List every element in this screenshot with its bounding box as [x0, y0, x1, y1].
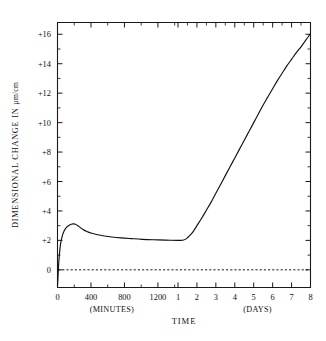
plot-frame [58, 23, 311, 288]
y-tick-label: 0 [47, 266, 51, 275]
x-tick-label-days: 4 [233, 293, 238, 302]
axis-ticks [58, 23, 311, 288]
chart-figure: 0+2+4+6+8+10+12+14+16 040080012001234567… [0, 0, 326, 341]
y-tick-label: +12 [38, 89, 51, 98]
x-tick-label-minutes: 400 [85, 293, 98, 302]
series-line-dimensional-change [58, 34, 311, 286]
y-axis-title: DIMENSIONAL CHANGE IN µm/cm [11, 82, 20, 228]
y-axis-title-text: DIMENSIONAL CHANGE IN [11, 105, 20, 228]
x-tick-label-minutes: 1200 [150, 293, 167, 302]
x-axis-tick-labels: 0400800120012345678 [55, 293, 312, 302]
y-tick-label: +8 [42, 148, 51, 157]
x-tick-label-days: 7 [289, 293, 293, 302]
x-tick-label-days: 8 [308, 293, 312, 302]
plot-border [58, 23, 311, 288]
x-tick-label-minutes: 800 [118, 293, 131, 302]
x-tick-label-days: 3 [214, 293, 218, 302]
y-tick-label: +14 [38, 60, 52, 69]
y-tick-label: +6 [42, 178, 51, 187]
x-tick-label-days: 5 [252, 293, 256, 302]
chart-canvas: 0+2+4+6+8+10+12+14+16 040080012001234567… [0, 0, 326, 341]
y-tick-label: +4 [42, 207, 52, 216]
x-subcaption-days: (DAYS) [243, 305, 272, 314]
x-axis-title: TIME [172, 316, 197, 326]
x-tick-label-days: 2 [195, 293, 199, 302]
x-subcaption-minutes: (MINUTES) [90, 305, 134, 314]
data-curve [58, 34, 311, 286]
x-tick-label-minutes: 0 [55, 293, 59, 302]
y-tick-label: +16 [38, 30, 51, 39]
y-axis-unit-text: µm/cm [11, 82, 20, 105]
x-tick-label-days: 1 [176, 293, 180, 302]
y-tick-label: +2 [42, 236, 51, 245]
y-tick-label: +10 [38, 119, 51, 128]
y-axis-tick-labels: 0+2+4+6+8+10+12+14+16 [38, 30, 52, 275]
x-tick-label-days: 6 [271, 293, 275, 302]
